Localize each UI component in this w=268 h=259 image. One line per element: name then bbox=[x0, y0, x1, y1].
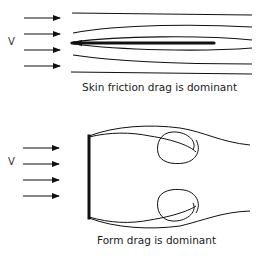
skin-friction-diagram bbox=[0, 0, 268, 120]
flow-arrows-icon bbox=[23, 148, 59, 196]
skin-friction-caption: Skin friction drag is dominant bbox=[82, 81, 237, 93]
flow-arrows-icon bbox=[24, 18, 60, 66]
velocity-label: V bbox=[8, 36, 15, 47]
velocity-label: V bbox=[8, 156, 15, 167]
skin-friction-panel: V Skin friction drag is dominant bbox=[0, 0, 268, 120]
form-drag-caption: Form drag is dominant bbox=[97, 234, 216, 246]
separated-streamlines-icon bbox=[89, 126, 250, 228]
form-drag-panel: V Form drag is dominant bbox=[0, 120, 268, 259]
